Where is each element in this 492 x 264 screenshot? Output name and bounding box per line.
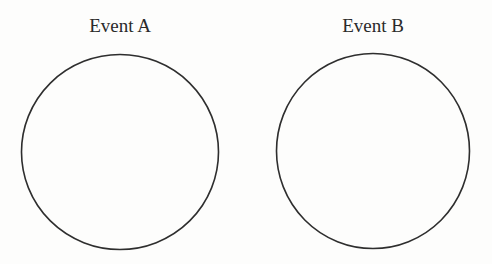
event-a-circle	[22, 55, 219, 250]
event-b-label: Event B	[342, 14, 404, 38]
venn-diagram-canvas	[0, 0, 492, 264]
event-a-label: Event A	[89, 14, 151, 38]
mutually-exclusive-events-diagram: Event A Event B	[0, 0, 492, 264]
event-b-circle	[277, 54, 470, 249]
